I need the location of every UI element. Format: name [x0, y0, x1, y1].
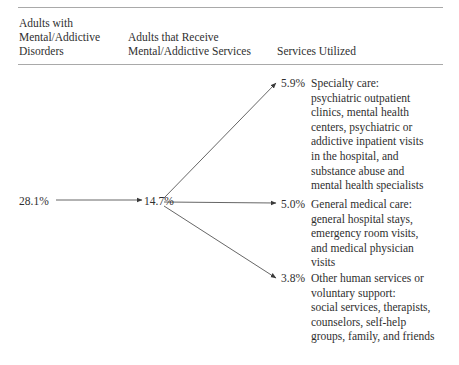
service-other-human-services: 3.8% Other human services or voluntary s… [281, 271, 456, 344]
flow-diagram-figure: Adults with Mental/Addictive Disorders A… [0, 0, 459, 365]
service-percentage-general-medical-care: 5.0% [281, 197, 305, 212]
service-percentage-other-human-services: 3.8% [281, 271, 305, 286]
arrow-mid-to-other-human-services [164, 206, 276, 278]
service-percentage-specialty-care: 5.9% [281, 76, 305, 91]
service-description-specialty-care: Specialty care: psychiatric outpatient c… [311, 76, 456, 193]
arrow-mid-to-specialty-care [164, 83, 276, 198]
service-description-other-human-services: Other human services or voluntary suppor… [311, 271, 456, 344]
arrow-mid-to-general-medical-care [164, 202, 276, 203]
service-description-general-medical-care: General medical care: general hospital s… [311, 197, 456, 270]
percentage-adults-with-disorders: 28.1% [19, 194, 49, 208]
service-general-medical-care: 5.0% General medical care: general hospi… [281, 197, 456, 270]
service-specialty-care: 5.9% Specialty care: psychiatric outpati… [281, 76, 456, 193]
percentage-adults-receiving-services: 14.7% [144, 194, 174, 208]
